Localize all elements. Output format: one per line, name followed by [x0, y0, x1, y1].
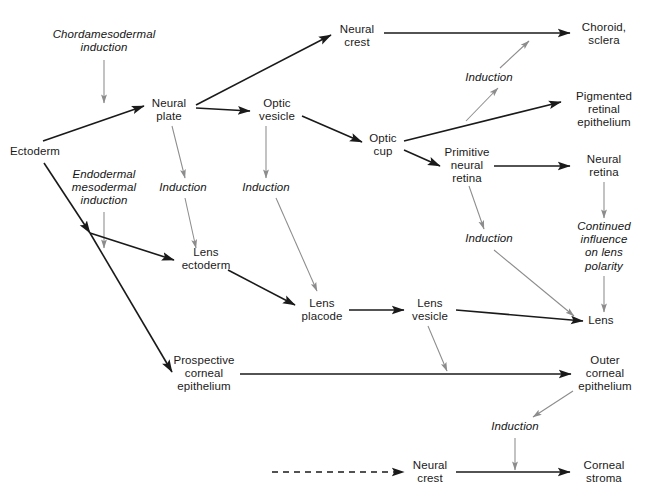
node-prospective_corneal_epithelium: Prospective corneal epithelium	[173, 354, 234, 394]
cropped-caption-ghost	[469, 0, 471, 9]
edge-optic-vesicle-to-optic-cup	[302, 116, 362, 142]
edge-outer-cornea-to-induction	[533, 391, 573, 417]
edge-induction-choroid-upward	[500, 41, 529, 68]
node-lens_vesicle: Lens vesicle	[412, 297, 448, 323]
edge-lens-vesicle-to-lens	[456, 310, 583, 321]
edge-induction-retina-lens-to-lens	[494, 250, 574, 316]
node-induction_choroid: Induction	[465, 71, 513, 84]
node-induction_optic_vesicle: Induction	[242, 181, 290, 194]
node-neural_plate: Neural plate	[152, 97, 186, 123]
eye-development-diagram: Chordamesodermal inductionEctodermNeural…	[0, 0, 648, 504]
edge-optic-cup-to-primitive-retina	[404, 150, 440, 166]
node-lens: Lens	[588, 314, 613, 327]
node-induction_lens_ectoderm: Induction	[159, 181, 207, 194]
node-lens_ectoderm: Lens ectoderm	[182, 246, 231, 272]
node-lens_placode: Lens placode	[302, 297, 343, 323]
edge-optic-cup-to-pigmented	[404, 102, 561, 141]
node-induction_corneal_stroma: Induction	[491, 420, 539, 433]
edge-neural-plate-to-optic-vesicle	[196, 108, 250, 111]
edge-induction-optic-to-lens-placode	[276, 198, 317, 291]
node-optic_cup: Optic cup	[369, 132, 396, 158]
edge-induction-to-choroid-line	[466, 88, 498, 121]
node-corneal_stroma: Corneal stroma	[584, 459, 625, 485]
edge-branch-to-lens-ectoderm	[90, 233, 174, 260]
node-outer_corneal_epithelium: Outer corneal epithelium	[578, 354, 631, 394]
node-neural_crest_top: Neural crest	[340, 23, 374, 49]
node-continued_influence: Continued influence on lens polarity	[577, 220, 630, 273]
edge-lens-vesicle-to-cornea-line	[428, 326, 447, 371]
node-induction_retina_lens: Induction	[465, 232, 513, 245]
node-ectoderm: Ectoderm	[10, 145, 60, 158]
edge-layer	[0, 0, 648, 504]
edge-lens-ectoderm-to-lens-placode	[228, 270, 295, 305]
node-chordamesodermal_induction: Chordamesodermal induction	[53, 28, 156, 54]
edge-ectoderm-to-neural-plate	[43, 106, 144, 141]
edge-induction-lens-to-lens-ectoderm	[185, 198, 196, 248]
node-neural_crest_bottom: Neural crest	[413, 459, 447, 485]
edge-branch-to-prospective-cornea	[90, 233, 172, 372]
edge-neural-plate-to-neural-crest	[196, 35, 331, 105]
node-optic_vesicle: Optic vesicle	[259, 97, 295, 123]
node-neural_retina: Neural retina	[587, 153, 621, 179]
node-pigmented_retinal_epithelium: Pigmented retinal epithelium	[576, 90, 632, 130]
node-choroid_sclera: Choroid, sclera	[582, 21, 626, 47]
edge-primitive-retina-to-induction	[469, 186, 484, 229]
node-endodermal_mesodermal_induction: Endodermal mesodermal induction	[72, 168, 136, 208]
edge-neural-plate-to-induction-lens	[172, 126, 185, 178]
node-primitive_neural_retina: Primitive neural retina	[445, 146, 490, 186]
